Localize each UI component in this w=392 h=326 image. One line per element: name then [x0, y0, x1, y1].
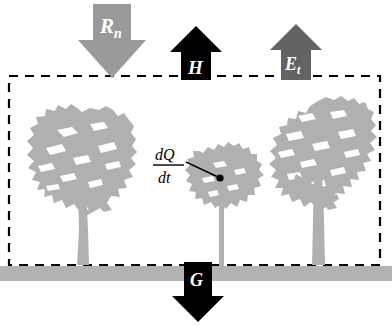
- energy-balance-diagram: R n H E t G dQ dt: [0, 0, 392, 326]
- sensible-heat-label: H: [187, 57, 204, 78]
- right-tree: [269, 96, 377, 265]
- sensible-heat-arrow: H: [170, 26, 222, 80]
- left-tree: [27, 104, 137, 265]
- storage-point-marker: [216, 174, 223, 181]
- heat-storage-denominator: dt: [158, 169, 171, 186]
- evapotranspiration-arrow: E t: [270, 24, 322, 80]
- evapotranspiration-label: E: [284, 54, 297, 74]
- middle-tree: [185, 142, 264, 272]
- net-radiation-arrow: R n: [78, 4, 146, 78]
- ground-heat-flux-label: G: [190, 270, 203, 290]
- net-radiation-label: R: [99, 14, 114, 38]
- heat-storage-numerator: dQ: [155, 146, 175, 163]
- net-radiation-subscript: n: [114, 26, 122, 41]
